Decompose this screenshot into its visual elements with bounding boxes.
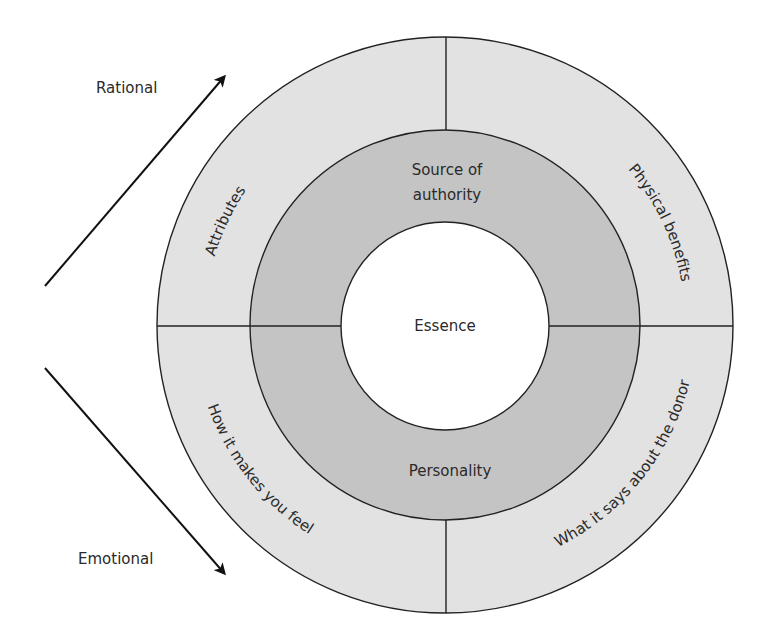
source-of-authority-label-line2: authority <box>413 186 481 204</box>
brand-essence-diagram: Essence Source of authority Personality … <box>0 0 765 640</box>
emotional-label: Emotional <box>78 550 153 568</box>
personality-label: Personality <box>409 462 492 480</box>
essence-label: Essence <box>414 317 475 335</box>
rational-label: Rational <box>96 79 157 97</box>
diagram-canvas: Essence Source of authority Personality … <box>0 0 765 640</box>
source-of-authority-label-line1: Source of <box>412 161 483 179</box>
